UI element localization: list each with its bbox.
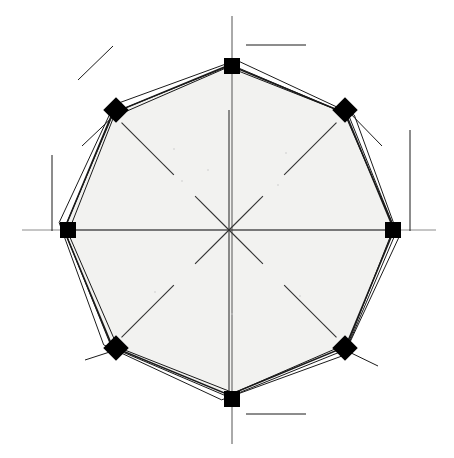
dust-speck-3 bbox=[277, 184, 279, 186]
octagon-diagram-svg bbox=[0, 0, 454, 458]
vertex-marker-square-e[interactable] bbox=[385, 222, 401, 238]
dust-speck-7 bbox=[207, 169, 209, 171]
dust-speck-1 bbox=[285, 152, 287, 154]
dust-speck-2 bbox=[181, 180, 183, 182]
vertex-marker-square-n[interactable] bbox=[224, 58, 240, 74]
vertex-marker-square-w[interactable] bbox=[60, 222, 76, 238]
dust-speck-0 bbox=[173, 148, 175, 150]
dust-speck-5 bbox=[299, 295, 301, 297]
vertex-marker-square-s[interactable] bbox=[224, 391, 240, 407]
figure-root bbox=[0, 0, 454, 458]
dust-speck-6 bbox=[231, 313, 233, 315]
dust-speck-4 bbox=[154, 291, 156, 293]
